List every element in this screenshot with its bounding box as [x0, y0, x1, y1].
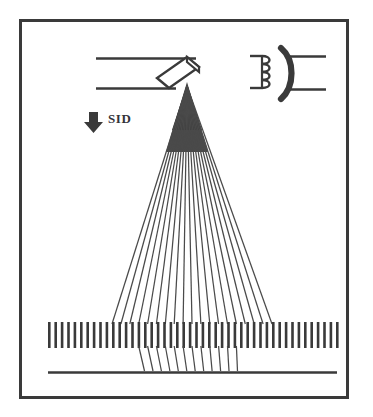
focusing-cup-arc-icon [281, 48, 292, 99]
xray-tube-diagram [0, 0, 373, 417]
xray-beam-fan [112, 86, 272, 324]
cathode-assembly [250, 48, 292, 99]
arrow-down-icon [84, 112, 103, 133]
sid-label: SID [108, 112, 131, 125]
filament-coil-icon [250, 56, 270, 88]
figure-canvas: SID [0, 0, 373, 417]
beam-rays-below-grid [139, 346, 238, 371]
anode-target [157, 57, 199, 88]
anti-scatter-grid [48, 322, 339, 348]
